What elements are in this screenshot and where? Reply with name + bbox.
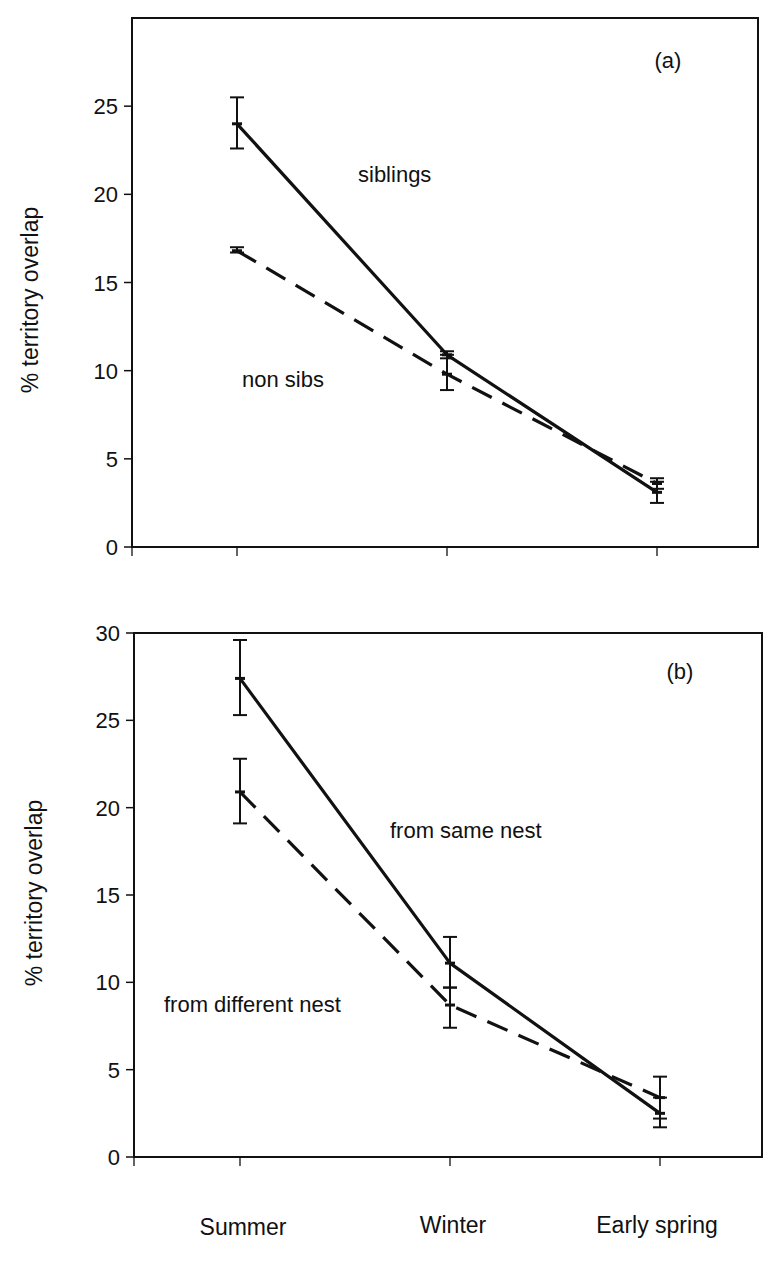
panel-b-series xyxy=(233,640,667,1127)
y-tick-label: 5 xyxy=(108,1058,120,1083)
error-bar xyxy=(230,97,244,148)
panel-b: 051015202530 % territory overlap (b) fro… xyxy=(21,621,762,1170)
panel-a-annotation-siblings: siblings xyxy=(358,162,431,187)
panel-b-x-axis xyxy=(134,1157,660,1166)
panel-a: 0510152025 % territory overlap (a) sibli… xyxy=(17,18,758,560)
error-bar xyxy=(443,988,457,1028)
panel-b-y-axis-title: % territory overlap xyxy=(21,800,47,987)
series-line-siblings xyxy=(237,124,657,493)
y-tick-label: 25 xyxy=(96,708,120,733)
panel-a-y-axis: 0510152025 xyxy=(94,94,132,560)
x-category-labels: Summer Winter Early spring xyxy=(200,1212,718,1240)
y-tick-label: 15 xyxy=(96,883,120,908)
error-bar xyxy=(233,640,247,715)
panel-a-x-axis xyxy=(132,547,657,556)
panel-a-label: (a) xyxy=(655,48,682,73)
y-tick-label: 0 xyxy=(108,1145,120,1170)
y-tick-label: 20 xyxy=(94,182,118,207)
panel-a-plot-frame xyxy=(132,18,758,547)
y-tick-label: 10 xyxy=(94,359,118,384)
y-tick-label: 30 xyxy=(96,621,120,646)
y-tick-label: 0 xyxy=(106,535,118,560)
chart-figure: 0510152025 % territory overlap (a) sibli… xyxy=(0,0,781,1267)
panel-b-plot-frame xyxy=(134,633,762,1157)
error-bar xyxy=(230,247,244,252)
series-line-from-same-nest xyxy=(240,678,660,1113)
x-label-summer: Summer xyxy=(200,1214,287,1240)
y-tick-label: 20 xyxy=(96,796,120,821)
y-tick-label: 5 xyxy=(106,447,118,472)
panel-a-annotation-non-sibs: non sibs xyxy=(242,367,324,392)
panel-b-annotation-different-nest: from different nest xyxy=(164,992,341,1017)
y-tick-label: 25 xyxy=(94,94,118,119)
y-tick-label: 15 xyxy=(94,271,118,296)
error-bar xyxy=(443,937,457,988)
x-label-early-spring: Early spring xyxy=(596,1212,717,1238)
panel-a-series xyxy=(230,97,664,503)
x-label-winter: Winter xyxy=(420,1212,487,1238)
panel-b-y-axis: 051015202530 xyxy=(96,621,134,1170)
error-bar xyxy=(233,759,247,824)
panel-a-y-axis-title: % territory overlap xyxy=(17,207,43,394)
panel-b-label: (b) xyxy=(667,659,694,684)
panel-b-annotation-same-nest: from same nest xyxy=(390,818,542,843)
y-tick-label: 10 xyxy=(96,970,120,995)
